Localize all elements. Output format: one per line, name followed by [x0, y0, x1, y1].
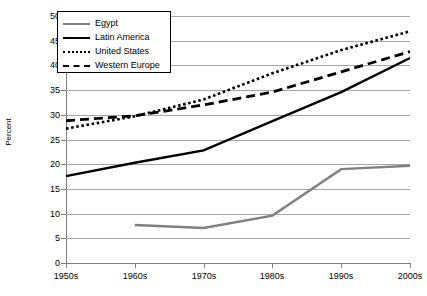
legend-label-western-europe: Western Europe: [95, 60, 160, 70]
x-tick-label: 1970s: [174, 272, 234, 281]
x-axis-line: [66, 263, 411, 264]
x-tick-label: 2000s: [380, 272, 427, 281]
y-tick-label: 0: [32, 259, 60, 268]
y-tick-label: 10: [32, 210, 60, 219]
series-line-latin-america: [66, 58, 410, 176]
x-tick-label: 1990s: [311, 272, 371, 281]
x-tick-mark: [66, 263, 67, 268]
x-tick-mark: [410, 263, 411, 268]
legend: Egypt Latin America United States Wester…: [57, 11, 171, 73]
y-tick-label: 40: [32, 61, 60, 70]
x-tick-label: 1950s: [36, 272, 96, 281]
y-tick-label: 25: [32, 136, 60, 145]
x-tick-mark: [135, 263, 136, 268]
legend-item-united-states: United States: [63, 44, 165, 58]
legend-item-latin-america: Latin America: [63, 30, 165, 44]
legend-swatch-western-europe-icon: [63, 60, 90, 71]
legend-swatch-latin-america-icon: [63, 32, 90, 43]
legend-swatch-united-states-icon: [63, 46, 90, 57]
y-tick-label: 15: [32, 185, 60, 194]
y-tick-label: 30: [32, 111, 60, 120]
y-tick-label: 50: [32, 12, 60, 21]
legend-item-egypt: Egypt: [63, 16, 165, 30]
y-tick-label: 5: [32, 234, 60, 243]
y-tick-label: 20: [32, 160, 60, 169]
legend-swatch-egypt-icon: [63, 18, 90, 29]
legend-label-egypt: Egypt: [95, 18, 118, 28]
legend-label-latin-america: Latin America: [95, 32, 150, 42]
y-axis-title: Percent: [5, 97, 13, 167]
y-tick-label: 45: [32, 37, 60, 46]
x-tick-label: 1960s: [105, 272, 165, 281]
legend-label-united-states: United States: [95, 46, 149, 56]
x-tick-mark: [272, 263, 273, 268]
x-tick-label: 1980s: [242, 272, 302, 281]
y-tick-label: 35: [32, 86, 60, 95]
x-tick-mark: [341, 263, 342, 268]
legend-item-western-europe: Western Europe: [63, 58, 165, 72]
series-line-egypt: [135, 166, 410, 228]
x-tick-mark: [204, 263, 205, 268]
line-chart: Percent 05101520253035404550 1950s1960s1…: [0, 0, 427, 296]
